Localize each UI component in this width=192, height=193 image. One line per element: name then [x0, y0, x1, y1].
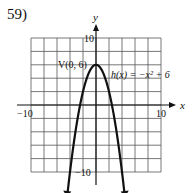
x-axis-label: x	[179, 99, 185, 111]
y-axis-arrow-icon	[93, 24, 99, 31]
y-axis-label: y	[92, 11, 98, 23]
y-max-tick-label: 10	[84, 33, 94, 44]
parabola-graph: x y −10 10 10 −10 V(0, 6) h(x) = −x² + 6	[0, 0, 192, 193]
x-min-tick-label: −10	[17, 108, 33, 119]
x-axis-arrow-icon	[169, 102, 176, 108]
x-max-tick-label: 10	[156, 108, 166, 119]
y-min-tick-label: −10	[75, 167, 91, 178]
vertex-label: V(0, 6)	[58, 59, 87, 71]
function-label: h(x) = −x² + 6	[111, 69, 170, 81]
